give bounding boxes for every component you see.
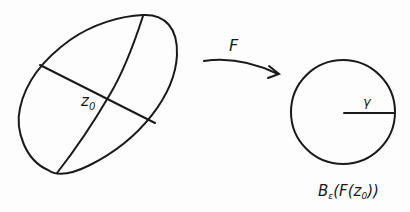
F-label: F [229, 36, 239, 55]
diagram-svg: z0 F γ Bε(F(z0)) [0, 0, 410, 212]
diagram-canvas: z0 F γ Bε(F(z0)) [0, 0, 410, 212]
ball-label: Bε(F(z0)) [318, 182, 379, 201]
gamma-label: γ [363, 94, 372, 109]
map-arrow [204, 60, 278, 74]
z0-label: z0 [80, 92, 95, 112]
